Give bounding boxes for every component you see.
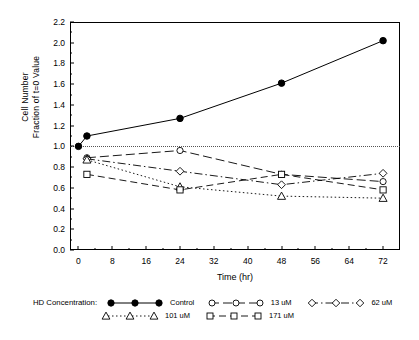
data-point-marker <box>177 147 183 153</box>
y-tick-label: 1.2 <box>53 121 70 131</box>
data-point-marker <box>231 313 237 319</box>
legend-item-control[interactable]: Control <box>105 297 206 309</box>
y-axis-label: Cell Number Fraction of t=0 Value <box>20 22 42 172</box>
data-point-marker <box>84 133 91 140</box>
data-point-marker <box>357 299 365 307</box>
y-tick-label: 1.4 <box>53 100 70 110</box>
legend-item-171um[interactable]: 171 uM <box>204 310 308 322</box>
y-tick-label: 1.6 <box>53 79 70 89</box>
legend-label-13um: 13 uM <box>266 298 292 307</box>
legend-symbol-101um <box>100 310 160 322</box>
x-tick-label: 72 <box>378 250 387 266</box>
y-tick-label: 2.0 <box>53 38 70 48</box>
data-point-marker <box>257 300 263 306</box>
x-axis-label: Time (hr) <box>70 272 400 282</box>
y-tick-label: 0.0 <box>53 245 70 255</box>
legend: HD Concentration: Control 13 uM 62 uM 10… <box>8 296 411 322</box>
y-tick-label: 1.8 <box>53 58 70 68</box>
legend-row-1: HD Concentration: Control 13 uM 62 uM <box>8 296 411 309</box>
data-point-marker <box>84 171 90 177</box>
y-tick-label: 0.8 <box>53 162 70 172</box>
data-point-marker <box>176 167 184 175</box>
y-tick-label: 0.2 <box>53 224 70 234</box>
data-point-marker <box>150 312 158 319</box>
data-point-marker <box>380 37 387 44</box>
legend-label-62um: 62 uM <box>366 298 392 307</box>
y-tick-label: 0.4 <box>53 204 70 214</box>
legend-item-62um[interactable]: 62 uM <box>306 297 411 309</box>
data-point-marker <box>132 299 138 305</box>
plot-area: 0.00.20.40.60.81.01.21.41.61.82.02.2 081… <box>70 22 400 250</box>
series-line <box>87 151 383 182</box>
data-point-marker <box>380 179 386 185</box>
x-tick-label: 16 <box>141 250 150 266</box>
data-point-marker <box>75 143 82 150</box>
data-point-marker <box>278 80 285 87</box>
y-tick-label: 0.6 <box>53 183 70 193</box>
y-tick-label: 1.0 <box>53 141 70 151</box>
data-point-marker <box>209 300 215 306</box>
legend-symbol-13um <box>206 297 266 309</box>
legend-symbol-171um <box>204 310 264 322</box>
y-tick-label: 2.2 <box>53 17 70 27</box>
legend-symbol-control <box>105 297 165 309</box>
data-point-marker <box>379 169 387 177</box>
legend-item-13um[interactable]: 13 uM <box>206 297 307 309</box>
data-point-marker <box>255 313 261 319</box>
x-tick-label: 56 <box>311 250 320 266</box>
data-point-marker <box>233 300 239 306</box>
data-point-marker <box>108 299 114 305</box>
x-tick-label: 0 <box>76 250 81 266</box>
x-tick-label: 24 <box>175 250 184 266</box>
figure: Cell Number Fraction of t=0 Value 0.00.2… <box>0 0 419 340</box>
legend-title: HD Concentration: <box>8 298 105 307</box>
data-point-marker <box>309 299 317 307</box>
x-tick-label: 32 <box>209 250 218 266</box>
x-tick-label: 48 <box>277 250 286 266</box>
legend-symbol-62um <box>306 297 366 309</box>
data-point-marker <box>333 299 341 307</box>
x-tick-label: 40 <box>243 250 252 266</box>
data-series-group <box>70 22 400 250</box>
data-point-marker <box>177 115 184 122</box>
legend-row-2: 101 uM 171 uM <box>8 309 411 322</box>
series-line <box>87 159 383 185</box>
legend-label-control: Control <box>165 298 194 307</box>
x-tick-label: 8 <box>110 250 115 266</box>
data-point-marker <box>207 313 213 319</box>
data-point-marker <box>278 181 286 189</box>
y-axis-label-line2: Fraction of t=0 Value <box>31 22 42 172</box>
data-point-marker <box>156 299 162 305</box>
data-point-marker <box>278 171 284 177</box>
data-point-marker <box>380 187 386 193</box>
data-point-marker <box>379 194 387 201</box>
y-axis-label-line1: Cell Number <box>20 22 31 172</box>
legend-item-101um[interactable]: 101 uM <box>100 310 204 322</box>
legend-label-171um: 171 uM <box>264 311 294 320</box>
data-point-marker <box>177 187 183 193</box>
series-line <box>87 160 383 198</box>
x-tick-label: 64 <box>344 250 353 266</box>
series-line <box>78 41 383 147</box>
legend-label-101um: 101 uM <box>160 311 190 320</box>
series-line <box>87 174 383 190</box>
